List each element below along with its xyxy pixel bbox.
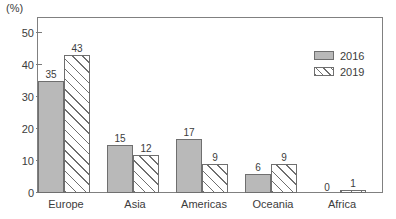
bar-asia-2019[interactable]: 12 [133, 155, 159, 193]
legend-swatch-2016-icon [314, 51, 334, 60]
x-tick-label-americas: Americas [181, 198, 227, 211]
x-tick-label-africa: Africa [328, 198, 356, 211]
legend-swatch-2019-icon [314, 67, 334, 76]
x-tick-label-asia: Asia [124, 198, 145, 211]
bar-value-europe-2016: 35 [45, 69, 56, 80]
legend-item-2016[interactable]: 2016 [314, 49, 376, 62]
legend-label-2016: 2016 [340, 50, 364, 62]
bar-value-oceania-2019: 9 [281, 152, 287, 163]
bar-europe-2016[interactable]: 35 [38, 81, 64, 193]
bar-value-asia-2019: 12 [140, 143, 151, 154]
bar-group-americas: 17 9 [175, 18, 233, 193]
bar-asia-2016[interactable]: 15 [107, 145, 133, 193]
bars-layer: 35 43 15 12 17 9 6 [0, 18, 396, 193]
x-tick-label-oceania: Oceania [253, 198, 294, 211]
legend-label-2019: 2019 [340, 66, 364, 78]
bar-group-europe: 35 43 [37, 18, 95, 193]
legend: 2016 2019 [314, 49, 376, 81]
x-tick-label-europe: Europe [48, 198, 83, 211]
bar-value-americas-2016: 17 [183, 127, 194, 138]
bar-oceania-2019[interactable]: 9 [271, 164, 297, 193]
bar-africa-2019[interactable]: 1 [340, 190, 366, 193]
bar-americas-2019[interactable]: 9 [202, 164, 228, 193]
bar-group-africa: 0 1 [313, 18, 371, 193]
bar-value-europe-2019: 43 [71, 43, 82, 54]
bar-americas-2016[interactable]: 17 [176, 139, 202, 193]
bar-europe-2019[interactable]: 43 [64, 55, 90, 193]
bar-value-asia-2016: 15 [114, 133, 125, 144]
bar-group-asia: 15 12 [106, 18, 164, 193]
bar-chart: (%) 0 10 20 30 40 50 [0, 0, 396, 219]
bar-group-oceania: 6 9 [244, 18, 302, 193]
bar-value-africa-2016: 0 [324, 182, 330, 193]
bar-value-africa-2019: 1 [350, 178, 356, 189]
legend-item-2019[interactable]: 2019 [314, 65, 376, 78]
bar-value-americas-2019: 9 [212, 152, 218, 163]
bar-value-oceania-2016: 6 [255, 162, 261, 173]
bar-oceania-2016[interactable]: 6 [245, 174, 271, 193]
